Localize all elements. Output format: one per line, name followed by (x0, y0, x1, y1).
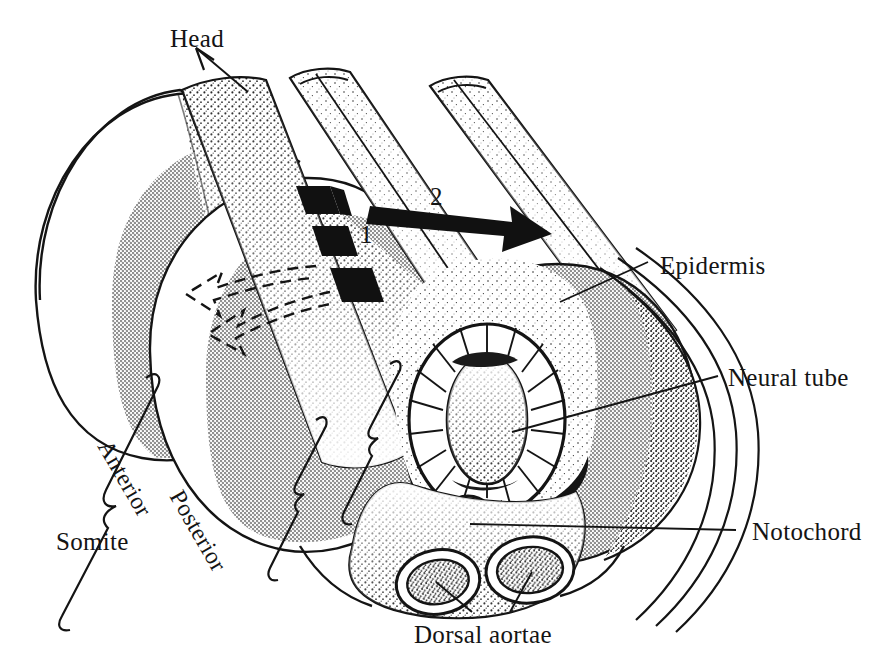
label-notochord: Notochord (752, 519, 862, 544)
label-epidermis: Epidermis (660, 253, 765, 278)
label-dorsal-aortae: Dorsal aortae (414, 622, 552, 647)
label-head: Head (170, 26, 224, 51)
anatomy-diagram (0, 0, 888, 668)
figure-canvas: Head Epidermis Neural tube Notochord Dor… (0, 0, 888, 668)
annotation-step-1: 1 (360, 222, 373, 247)
label-somite: Somite (56, 529, 129, 554)
annotation-step-2: 2 (430, 184, 443, 209)
label-neural-tube: Neural tube (728, 365, 849, 390)
